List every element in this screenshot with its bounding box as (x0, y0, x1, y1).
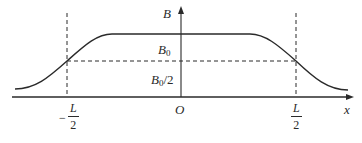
fraction-bar (68, 116, 79, 117)
plateau-level-label: B0 (158, 43, 170, 58)
left-marker-fraction: L 2 (68, 102, 79, 131)
y-axis-label: B (163, 7, 171, 20)
diagram-canvas (0, 0, 362, 143)
right-marker-fraction: L 2 (291, 102, 302, 131)
half-level-label: B0/2 (151, 73, 174, 88)
fraction-bar (291, 116, 302, 117)
field-profile-diagram: B x O B0 B0/2 − L 2 L 2 (0, 0, 362, 143)
origin-label: O (175, 103, 184, 116)
x-axis-arrow-icon (346, 94, 354, 100)
y-axis-arrow-icon (178, 6, 184, 14)
x-axis-label: x (344, 103, 350, 116)
left-marker-sign: − (59, 111, 66, 126)
